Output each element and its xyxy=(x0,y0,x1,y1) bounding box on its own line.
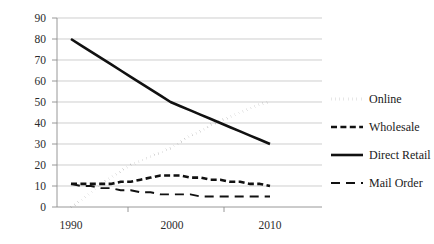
y-label-90: 90 xyxy=(35,12,47,24)
legend-label-mail-order: Mail Order xyxy=(369,176,423,190)
x-label-1990: 1990 xyxy=(60,219,83,231)
x-label-2010: 2010 xyxy=(259,219,282,231)
legend-item-wholesale[interactable]: Wholesale xyxy=(331,120,420,134)
series-line-wholesale xyxy=(71,176,270,187)
chart-canvas: 90 80 70 60 50 40 30 20 10 0 1990 2000 2… xyxy=(0,0,434,244)
series-line-direct-retail xyxy=(71,39,270,144)
x-axis-labels: 1990 2000 2010 xyxy=(60,219,282,231)
y-label-30: 30 xyxy=(35,138,47,150)
line-chart: 90 80 70 60 50 40 30 20 10 0 1990 2000 2… xyxy=(0,0,434,244)
legend-item-direct-retail[interactable]: Direct Retail xyxy=(331,148,431,162)
y-label-80: 80 xyxy=(35,33,47,45)
y-label-20: 20 xyxy=(35,159,47,171)
chart-legend: Online Wholesale Direct Retail Mail Orde… xyxy=(331,92,431,190)
y-label-50: 50 xyxy=(35,96,47,108)
y-label-10: 10 xyxy=(35,180,47,192)
legend-label-online: Online xyxy=(369,92,402,106)
legend-label-direct-retail: Direct Retail xyxy=(369,148,431,162)
y-label-70: 70 xyxy=(35,54,47,66)
series-line-online xyxy=(71,102,270,207)
y-label-0: 0 xyxy=(40,201,46,213)
legend-label-wholesale: Wholesale xyxy=(369,120,420,134)
y-label-60: 60 xyxy=(35,75,47,87)
y-axis-labels: 90 80 70 60 50 40 30 20 10 0 xyxy=(35,12,47,213)
legend-item-mail-order[interactable]: Mail Order xyxy=(331,176,423,190)
x-label-2000: 2000 xyxy=(161,219,184,231)
y-axis-ticks xyxy=(52,18,57,207)
gridlines xyxy=(57,18,322,186)
x-axis-ticks xyxy=(128,207,224,212)
legend-item-online[interactable]: Online xyxy=(331,92,402,106)
y-label-40: 40 xyxy=(35,117,47,129)
